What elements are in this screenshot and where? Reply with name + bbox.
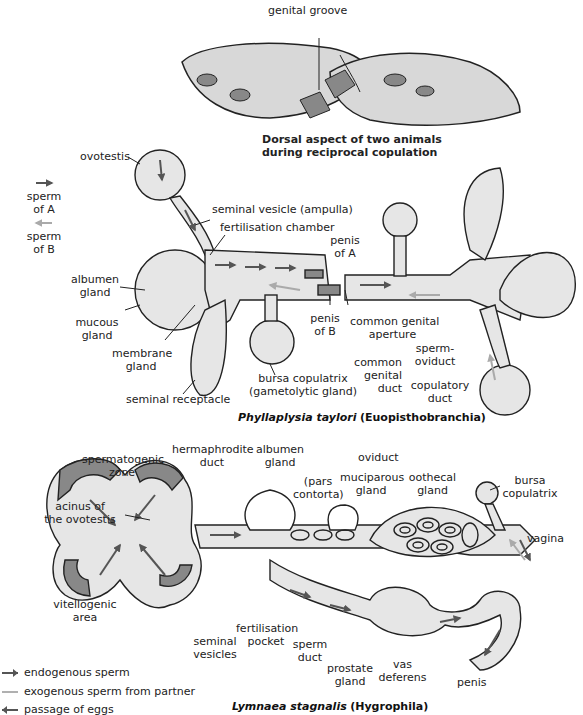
label-membrane-gland: membrane gland: [112, 347, 170, 373]
label-albumen-gland: albumen gland: [70, 273, 120, 299]
label-oviduct: oviduct: [358, 451, 399, 464]
legend-sperm-a-line2: of A: [24, 203, 64, 216]
label-prostate-gland: prostate gland: [320, 662, 380, 688]
label-penis-b: penis of B: [310, 312, 340, 338]
label-common-genital-aperture-2: aperture: [350, 328, 435, 341]
label-albumen-gland-lymnaea: albumen gland: [255, 443, 305, 469]
label-oothecal-gland-1: oothecal: [405, 471, 460, 484]
label-pars-contorta-1: (pars: [293, 475, 343, 488]
label-vitellogenic-1: vitellogenic: [50, 598, 120, 611]
label-acinus-ovotestis: acinus of the ovotestis: [40, 500, 120, 526]
arrow-right-dark-icon: [2, 672, 18, 674]
arrow-left-dark-icon: [2, 709, 18, 711]
label-sperm-duct: sperm duct: [290, 638, 330, 664]
arrow-light-icon: [2, 691, 18, 693]
phyllaplysia-caption: Phyllaplysia taylori (Euopisthobranchia): [238, 411, 486, 424]
lymnaea-caption: Lymnaea stagnalis (Hygrophila): [232, 700, 428, 713]
label-penis-a: penis of A: [330, 234, 360, 260]
legend-sperm-b-line2: of B: [24, 243, 64, 256]
label-penis-lymnaea: penis: [457, 676, 487, 689]
label-vas-deferens-2: deferens: [375, 671, 430, 684]
label-penis-b-1: penis: [310, 312, 340, 325]
label-muciparous-gland-1: muciparous: [340, 471, 402, 484]
legend-sperm-a-line1: sperm: [24, 190, 64, 203]
label-seminal-receptacle: seminal receptacle: [126, 393, 230, 406]
legend-exogenous-sperm-label: exogenous sperm from partner: [24, 685, 195, 698]
label-seminal-vesicles: seminal vesicles: [190, 635, 240, 661]
label-penis-a-1: penis: [330, 234, 360, 247]
label-spermoviduct-1: sperm-: [410, 342, 460, 355]
label-vas-deferens-1: vas: [375, 658, 430, 671]
label-genital-groove: genital groove: [268, 4, 347, 17]
label-prostate-gland-1: prostate: [320, 662, 380, 675]
label-penis-a-2: of A: [330, 247, 360, 260]
label-common-genital-aperture: common genital aperture: [350, 315, 435, 341]
label-copulatory-duct: copulatory duct: [410, 379, 470, 405]
label-albumen-gland-lymnaea-2: gland: [255, 456, 305, 469]
label-pars-contorta: (pars contorta): [293, 475, 343, 501]
dorsal-caption-line2: during reciprocal copulation: [262, 146, 432, 159]
label-seminal-vesicle: seminal vesicle (ampulla): [212, 203, 353, 216]
label-common-genital-duct-3: duct: [350, 382, 402, 395]
label-vitellogenic-2: area: [50, 611, 120, 624]
label-albumen-gland-lymnaea-1: albumen: [255, 443, 305, 456]
label-fertilisation-chamber: fertilisation chamber: [220, 221, 334, 234]
label-bursa-copulatrix-lymnaea: bursa copulatrix: [500, 474, 560, 500]
label-seminal-vesicles-1: seminal: [190, 635, 240, 648]
label-pars-contorta-2: contorta): [293, 488, 343, 501]
label-prostate-gland-2: gland: [320, 675, 380, 688]
label-fertilisation-pocket-1: fertilisation: [236, 622, 296, 635]
dorsal-caption-line1: Dorsal aspect of two animals: [262, 133, 432, 146]
legend-exogenous-sperm: exogenous sperm from partner: [2, 685, 195, 698]
label-hermaphrodite-duct: hermaphrodite duct: [172, 443, 252, 469]
label-bursa-copulatrix: bursa copulatrix (gametolytic gland): [243, 372, 363, 398]
label-mucous-gland-2: gland: [74, 329, 120, 342]
label-spermatogenic-zone-2: zone: [82, 466, 162, 479]
label-spermoviduct: sperm- oviduct: [410, 342, 460, 368]
label-fertilisation-pocket: fertilisation pocket: [236, 622, 296, 648]
label-oothecal-gland-2: gland: [405, 484, 460, 497]
label-bursa-copulatrix-lymnaea-1: bursa: [500, 474, 560, 487]
legend-passage-of-eggs: passage of eggs: [2, 703, 114, 715]
label-bursa-copulatrix-2: (gametolytic gland): [243, 385, 363, 398]
label-spermatogenic-zone-1: spermatogenic: [82, 453, 162, 466]
label-muciparous-gland-2: gland: [340, 484, 402, 497]
legend-sperm-b: sperm of B: [24, 230, 64, 256]
label-spermatogenic-zone: spermatogenic zone: [82, 453, 162, 479]
legend-sperm-b-line1: sperm: [24, 230, 64, 243]
label-common-genital-duct-1: common: [350, 356, 402, 369]
label-sperm-duct-1: sperm: [290, 638, 330, 651]
label-hermaphrodite-duct-1: hermaphrodite: [172, 443, 252, 456]
label-vagina: vagina: [527, 532, 564, 545]
label-albumen-gland-1: albumen: [70, 273, 120, 286]
label-acinus-2: the ovotestis: [40, 513, 120, 526]
label-ovotestis: ovotestis: [80, 150, 130, 163]
label-bursa-copulatrix-1: bursa copulatrix: [243, 372, 363, 385]
label-bursa-copulatrix-lymnaea-2: copulatrix: [500, 487, 560, 500]
label-common-genital-duct: common genital duct: [350, 356, 402, 395]
label-common-genital-duct-2: genital: [350, 369, 402, 382]
label-common-genital-aperture-1: common genital: [350, 315, 435, 328]
label-seminal-vesicles-2: vesicles: [190, 648, 240, 661]
label-fertilisation-pocket-2: pocket: [236, 635, 296, 648]
phyllaplysia-group: (Euopisthobranchia): [360, 411, 486, 424]
label-membrane-gland-2: gland: [112, 360, 170, 373]
label-vas-deferens: vas deferens: [375, 658, 430, 684]
label-vitellogenic-area: vitellogenic area: [50, 598, 120, 624]
label-mucous-gland-1: mucous: [74, 316, 120, 329]
label-acinus-1: acinus of: [40, 500, 120, 513]
label-albumen-gland-2: gland: [70, 286, 120, 299]
legend-passage-of-eggs-label: passage of eggs: [24, 703, 114, 715]
label-muciparous-gland: muciparous gland: [340, 471, 402, 497]
phyllaplysia-species: Phyllaplysia taylori: [238, 411, 356, 424]
legend-endogenous-sperm: endogenous sperm: [2, 666, 130, 679]
label-copulatory-duct-1: copulatory: [410, 379, 470, 392]
label-oothecal-gland: oothecal gland: [405, 471, 460, 497]
legend-endogenous-sperm-label: endogenous sperm: [24, 666, 130, 679]
label-penis-b-2: of B: [310, 325, 340, 338]
label-copulatory-duct-2: duct: [410, 392, 470, 405]
label-membrane-gland-1: membrane: [112, 347, 170, 360]
label-hermaphrodite-duct-2: duct: [172, 456, 252, 469]
label-mucous-gland: mucous gland: [74, 316, 120, 342]
label-spermoviduct-2: oviduct: [410, 355, 460, 368]
